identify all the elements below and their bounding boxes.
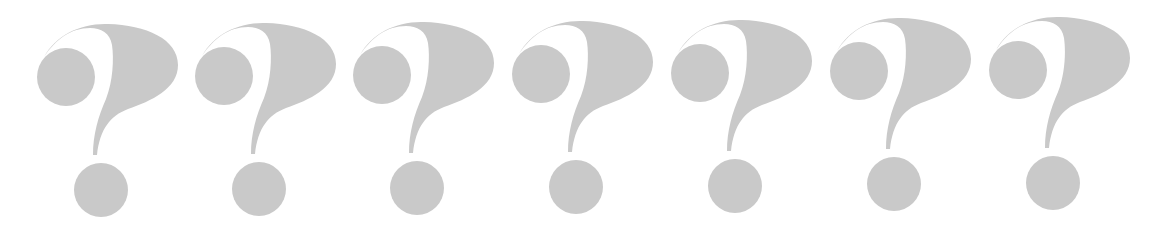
question-mark-icon bbox=[37, 24, 178, 217]
question-mark-icon bbox=[195, 23, 336, 216]
question-mark-icon bbox=[512, 21, 653, 214]
question-mark-icon bbox=[353, 22, 494, 215]
question-marks-row bbox=[0, 0, 1168, 231]
question-mark-icon bbox=[671, 20, 812, 213]
question-mark-icon bbox=[989, 17, 1130, 210]
question-mark-icon bbox=[830, 18, 971, 211]
